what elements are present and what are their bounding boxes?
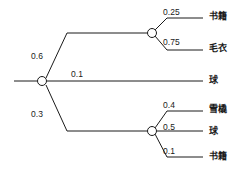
leaf-label-ball-middle: 球 xyxy=(209,76,218,85)
edge-upper-to-books xyxy=(155,18,203,30)
probability-label-lower-books: 0.1 xyxy=(163,147,175,156)
root-node xyxy=(38,77,47,86)
lower-internal-node xyxy=(148,127,157,136)
probability-label-branch2: 0.1 xyxy=(71,70,83,79)
probability-label-upper-books: 0.25 xyxy=(163,8,180,17)
probability-label-lower-ball: 0.5 xyxy=(163,123,175,132)
leaf-label-sled: 雪橇 xyxy=(209,105,227,114)
probability-label-branch1: 0.6 xyxy=(31,52,43,61)
upper-internal-node xyxy=(148,29,157,38)
probability-label-upper-sweater: 0.75 xyxy=(163,38,180,47)
leaf-label-books-upper: 书籍 xyxy=(209,12,227,21)
leaf-label-books-lower: 书籍 xyxy=(209,152,227,161)
probability-tree-diagram: 0.6 0.1 0.3 0.25 0.75 0.4 0.5 0.1 书籍 毛衣 … xyxy=(0,0,245,175)
tree-edges-svg xyxy=(0,0,245,175)
probability-label-lower-sled: 0.4 xyxy=(163,101,175,110)
leaf-label-sweater: 毛衣 xyxy=(209,44,227,53)
leaf-label-ball-lower: 球 xyxy=(209,127,218,136)
edge-root-to-lower-node xyxy=(46,85,147,131)
probability-label-branch3: 0.3 xyxy=(31,110,43,119)
edge-root-to-upper-node xyxy=(46,33,147,78)
